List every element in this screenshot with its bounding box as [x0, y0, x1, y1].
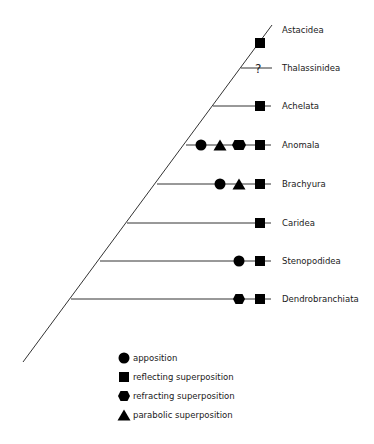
hexagon-icon	[232, 140, 246, 150]
question-mark-icon: ?	[255, 62, 261, 76]
taxon-caridea: Caridea	[127, 218, 315, 228]
legend-label: refracting superposition	[133, 391, 235, 401]
legend-item-apposition: apposition	[119, 353, 178, 364]
circle-icon	[215, 179, 226, 190]
taxon-stenopodidea: Stenopodidea	[100, 256, 341, 267]
circle-icon	[119, 353, 130, 364]
square-icon	[255, 101, 265, 111]
square-icon	[255, 218, 265, 228]
taxon-label: Caridea	[282, 218, 315, 228]
square-icon	[255, 179, 265, 189]
taxon-label: Anomala	[282, 140, 319, 150]
legend-label: parabolic superposition	[133, 410, 233, 420]
taxon-label: Astacidea	[282, 25, 324, 35]
circle-icon	[234, 256, 245, 267]
taxon-dendrobranchiata: Dendrobranchiata	[71, 294, 359, 304]
taxon-label: Thalassinidea	[281, 63, 340, 73]
legend-item-refracting: refracting superposition	[118, 391, 235, 401]
taxon-label: Brachyura	[282, 179, 326, 189]
legend-label: apposition	[133, 353, 177, 363]
square-icon	[255, 38, 265, 48]
taxon-achelata: Achelata	[213, 101, 319, 111]
taxon-label: Stenopodidea	[282, 256, 341, 266]
legend-item-reflecting: reflecting superposition	[119, 372, 234, 382]
taxon-brachyura: Brachyura	[157, 179, 326, 190]
legend-label: reflecting superposition	[133, 372, 234, 382]
hexagon-icon	[118, 391, 130, 401]
legend-item-parabolic: parabolic superposition	[118, 410, 233, 421]
square-icon	[255, 294, 265, 304]
square-icon	[255, 256, 265, 266]
hexagon-icon	[233, 294, 245, 304]
square-icon	[255, 140, 265, 150]
phylogenetic-tree: Astacidea ? Thalassinidea Achelata Anoma…	[0, 0, 374, 444]
legend: apposition reflecting superposition refr…	[118, 353, 235, 421]
taxon-astacidea: Astacidea	[255, 25, 324, 48]
circle-icon	[196, 140, 207, 151]
square-icon	[119, 372, 129, 382]
taxon-anomala: Anomala	[186, 140, 319, 151]
taxon-thalassinidea: ? Thalassinidea	[241, 62, 340, 76]
triangle-icon	[118, 410, 131, 421]
tree-trunk	[23, 25, 272, 362]
taxon-label: Achelata	[282, 101, 319, 111]
taxon-label: Dendrobranchiata	[282, 294, 359, 304]
